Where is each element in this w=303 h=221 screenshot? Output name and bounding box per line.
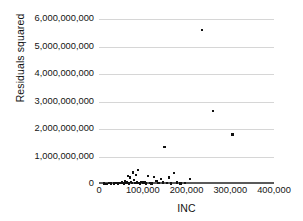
x-tick-label: 300,000 xyxy=(213,186,247,195)
data-point xyxy=(189,178,191,180)
gridline xyxy=(99,129,274,130)
gridline xyxy=(99,47,274,48)
data-point xyxy=(173,172,175,174)
x-tick-label: 400,000 xyxy=(257,186,291,195)
x-axis-tick-labels: 0100,000200,000300,000400,000 xyxy=(0,186,303,200)
data-point xyxy=(153,176,155,178)
gridline xyxy=(99,74,274,75)
y-tick-label: 6,000,000,000 xyxy=(35,14,94,23)
x-tick-label: 100,000 xyxy=(126,186,160,195)
data-point xyxy=(133,179,135,181)
gridline xyxy=(99,157,274,158)
data-point xyxy=(137,169,139,171)
data-point xyxy=(163,146,165,148)
x-tick-label: 200,000 xyxy=(170,186,204,195)
y-tick-label: 2,000,000,000 xyxy=(35,124,94,133)
data-point xyxy=(201,29,203,31)
x-tick-label: 0 xyxy=(96,186,101,195)
data-point xyxy=(129,176,131,178)
data-point xyxy=(162,181,164,183)
scatter-chart: Residuals squared 01,000,000,0002,000,00… xyxy=(0,0,303,221)
y-tick-label: 5,000,000,000 xyxy=(35,42,94,51)
gridline xyxy=(99,19,274,20)
data-point xyxy=(231,133,233,135)
data-point xyxy=(212,110,214,112)
data-point xyxy=(135,174,137,176)
plot-area xyxy=(99,19,274,184)
y-tick-label: 3,000,000,000 xyxy=(35,97,94,106)
y-tick-label: 4,000,000,000 xyxy=(35,69,94,78)
data-point xyxy=(132,171,134,173)
data-point xyxy=(176,181,178,183)
data-point xyxy=(147,175,149,177)
gridline xyxy=(99,102,274,103)
y-tick-label: 1,000,000,000 xyxy=(35,152,94,161)
x-axis-title: INC xyxy=(99,202,274,214)
data-point xyxy=(168,176,170,178)
data-point xyxy=(184,182,186,184)
data-point xyxy=(160,178,162,180)
data-point xyxy=(166,182,168,184)
